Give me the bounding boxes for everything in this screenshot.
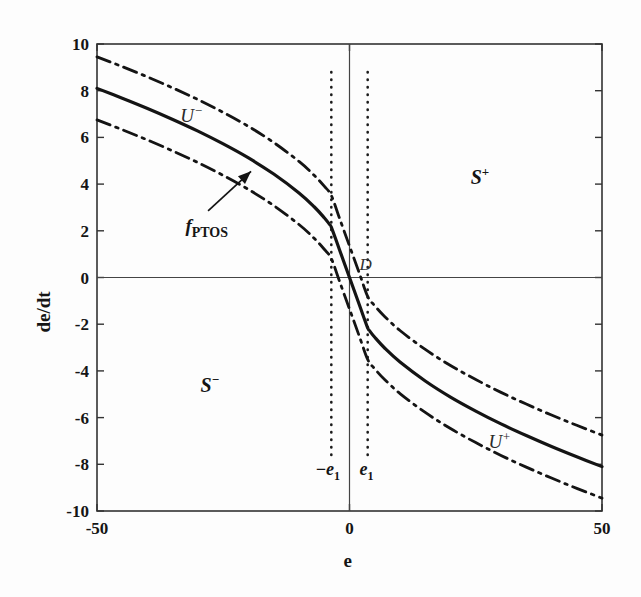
threshold-label-pos-e1: e1 <box>360 460 374 482</box>
region-label-s-plus-sign: + <box>482 164 489 179</box>
curve-label-u-minus-text: U <box>180 106 194 127</box>
x-tick-label: -50 <box>86 520 109 537</box>
curve-label-u-minus-sign: − <box>194 103 203 118</box>
curve-label-u-minus: U− <box>180 104 203 125</box>
curve-label-fptos-sub: PTOS <box>192 225 228 240</box>
y-tick-label: 8 <box>43 82 89 99</box>
region-label-s-minus: S− <box>201 373 220 395</box>
curve-label-fptos: fPTOS <box>185 216 228 240</box>
threshold-label-neg-e1: −e1 <box>315 460 340 482</box>
fptos-pointer-arrow <box>208 171 251 211</box>
region-label-s-plus-text: S <box>471 166 482 188</box>
y-tick-label: -10 <box>43 503 89 520</box>
y-tick-label: -2 <box>43 316 89 333</box>
y-tick-label: 0 <box>43 269 89 286</box>
phase-plane-plot <box>0 0 641 597</box>
y-tick-label: -4 <box>43 362 89 379</box>
origin-label-d: D <box>360 256 372 273</box>
y-tick-label: 2 <box>43 222 89 239</box>
y-tick-label: -8 <box>43 456 89 473</box>
x-tick-label: 0 <box>345 520 354 537</box>
region-label-s-minus-sign: − <box>212 372 219 387</box>
y-tick-label: -6 <box>43 409 89 426</box>
curve-label-u-plus-text: U <box>488 431 502 452</box>
figure-canvas: e de/dt S+ S− U− U+ fPTOS D −e1 e1 -10-8… <box>0 0 641 597</box>
region-label-s-plus: S+ <box>471 165 490 187</box>
threshold-label-neg-e1-text: −e <box>315 459 334 479</box>
x-axis-title: e <box>344 551 352 570</box>
curve-label-u-plus-sign: + <box>502 429 511 444</box>
threshold-label-neg-e1-sub: 1 <box>334 469 340 483</box>
threshold-label-pos-e1-text: e <box>360 459 368 479</box>
x-tick-label: 50 <box>594 520 611 537</box>
region-label-s-minus-text: S <box>201 374 212 396</box>
threshold-label-pos-e1-sub: 1 <box>368 469 374 483</box>
curve-label-u-plus: U+ <box>488 430 511 451</box>
y-tick-label: 10 <box>43 36 89 53</box>
y-tick-label: 6 <box>43 129 89 146</box>
y-tick-label: 4 <box>43 176 89 193</box>
